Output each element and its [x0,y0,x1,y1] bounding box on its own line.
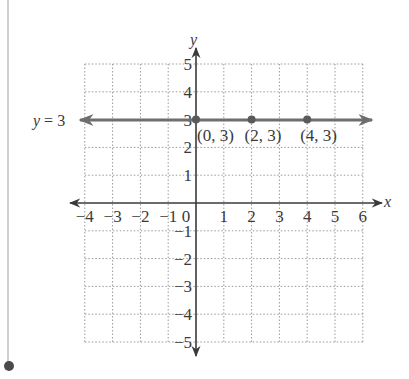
point-marker [192,116,200,124]
x-tick-label: 2 [247,207,256,226]
point-marker [303,116,311,124]
x-tick-label: −2 [131,207,149,226]
line-label-rest: = 3 [40,112,65,129]
y-tick-label: 4 [184,83,193,102]
y-tick-label: 2 [184,138,193,157]
x-axis-label: x [383,193,391,210]
y-tick-label: 1 [184,166,193,185]
x-tick-label: −3 [104,207,122,226]
x-tick-label: 6 [359,207,368,226]
x-tick-label: 1 [220,207,229,226]
y-tick-label: −3 [174,277,192,296]
y-axis-label: y [188,31,198,49]
x-tick-label: −4 [76,207,95,226]
x-tick-label: 4 [303,207,312,226]
y-tick-label: −5 [174,333,192,352]
x-tick-label: 3 [275,207,284,226]
point-marker [248,116,256,124]
y-tick-label: −1 [174,222,192,241]
y-tick-label: −2 [174,250,192,269]
side-dot [4,361,14,371]
point-label: (4, 3) [300,126,337,145]
line-label: y = 3 [31,112,65,130]
point-label: (2, 3) [245,126,282,145]
x-tick-label: 5 [331,207,340,226]
y-tick-label: −4 [174,305,193,324]
y-tick-label: 5 [184,55,193,74]
coordinate-plane-diagram: x y −4−3−2−10123456−5−4−3−2−112345 y = 3… [0,0,409,379]
point-label: (0, 3) [197,126,234,145]
